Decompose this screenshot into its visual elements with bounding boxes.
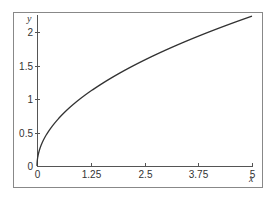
x-tick-label: 3.75 (189, 169, 209, 180)
axes (37, 15, 253, 167)
x-axis-label: x (248, 173, 254, 184)
ticks: 01.252.53.75500.511.52 (19, 27, 256, 180)
y-tick-label: 1 (27, 94, 33, 105)
x-tick-label: 2.5 (139, 169, 153, 180)
y-tick-label: 2 (27, 27, 33, 38)
x-tick-label: 1.25 (82, 169, 102, 180)
y-tick-label: 0 (27, 161, 33, 172)
y-tick-label: 1.5 (19, 61, 33, 72)
chart-frame (14, 13, 263, 188)
series-line (37, 16, 252, 166)
chart: 01.252.53.75500.511.52 x y (0, 0, 271, 198)
series (37, 16, 252, 166)
x-tick-label: 0 (35, 169, 41, 180)
y-tick-label: 0.5 (19, 128, 33, 139)
y-axis-label: y (26, 13, 32, 24)
